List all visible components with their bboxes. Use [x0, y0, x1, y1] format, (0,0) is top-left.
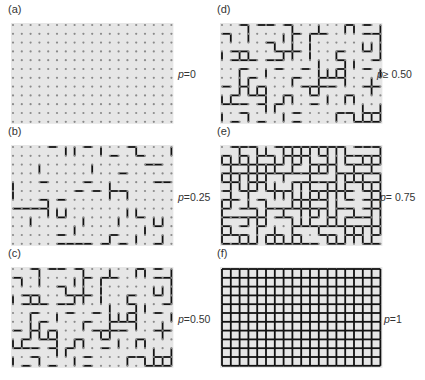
p-value-d: p≥ 0.50 — [377, 68, 412, 80]
lattice-panel-c — [11, 267, 173, 368]
lattice-panel-b — [11, 145, 173, 246]
panel-label-c: (c) — [8, 247, 21, 259]
p-value-b: p=0.25 — [178, 191, 210, 203]
lattice-panel-f — [220, 267, 382, 368]
panel-label-d: (d) — [217, 3, 230, 15]
lattice-panel-d — [220, 23, 382, 124]
lattice-panel-e — [220, 145, 382, 246]
panel-label-b: (b) — [8, 125, 21, 137]
panel-label-a: (a) — [8, 3, 21, 15]
panel-label-e: (e) — [217, 125, 230, 137]
lattice-panel-a — [11, 23, 173, 124]
p-value-c: p=0.50 — [178, 313, 210, 325]
panel-label-f: (f) — [217, 247, 227, 259]
p-value-f: p=1 — [384, 313, 402, 325]
p-value-a: p=0 — [178, 68, 196, 80]
p-value-e: p= 0.75 — [380, 191, 415, 203]
percolation-lattices — [0, 0, 425, 380]
